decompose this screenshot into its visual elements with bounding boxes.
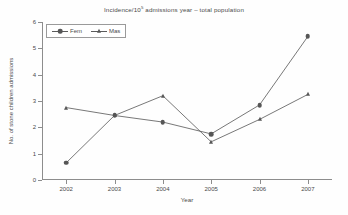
chart-container: Incidence/105 admissions year – total po… (0, 0, 348, 215)
x-tick (211, 180, 212, 184)
y-tick-label: 4 (33, 72, 36, 78)
data-point-mas-2004 (161, 94, 165, 98)
chart-title-prefix: Incidence/10 (104, 6, 141, 13)
data-point-fem-2005 (209, 132, 214, 137)
data-point-mas-2006 (258, 117, 262, 121)
y-axis-title-text: No. of stone children admissions (8, 58, 14, 145)
series-line-fem (66, 36, 308, 162)
x-tick (66, 180, 67, 184)
chart-legend: Fem Mas (46, 24, 126, 38)
data-point-fem-2007 (306, 34, 311, 39)
x-tick (308, 180, 309, 184)
y-tick-label: 0 (33, 177, 36, 183)
data-point-fem-2004 (161, 120, 166, 125)
x-tick-label: 2005 (204, 186, 217, 192)
x-tick-label: 2006 (253, 186, 266, 192)
chart-title: Incidence/105 admissions year – total po… (0, 6, 348, 13)
data-point-mas-2002 (64, 105, 68, 109)
legend-entry-mas[interactable]: Mas (91, 27, 120, 35)
legend-marker-circle-icon (52, 27, 68, 35)
legend-entry-fem[interactable]: Fem (52, 27, 82, 35)
y-tick-label: 3 (33, 98, 36, 104)
x-tick (115, 180, 116, 184)
data-point-mas-2007 (306, 92, 310, 96)
data-point-fem-2006 (257, 103, 262, 108)
x-tick (163, 180, 164, 184)
chart-title-suffix: admissions year – total population (143, 6, 244, 13)
y-axis-title: No. of stone children admissions (6, 22, 16, 180)
x-tick-label: 2007 (301, 186, 314, 192)
x-tick-label: 2004 (156, 186, 169, 192)
plot-area: 0123456 200220032004200520062007 (42, 22, 332, 180)
x-tick-label: 2002 (59, 186, 72, 192)
x-tick-label: 2003 (108, 186, 121, 192)
legend-label-mas: Mas (109, 28, 120, 34)
y-tick-label: 6 (33, 19, 36, 25)
series-line-mas (66, 94, 308, 141)
y-tick-label: 1 (33, 151, 36, 157)
legend-label-fem: Fem (70, 28, 82, 34)
legend-marker-triangle-icon (91, 27, 107, 35)
x-axis-title: Year (42, 196, 332, 203)
series-lines (42, 22, 332, 180)
y-tick (38, 180, 42, 181)
y-tick-label: 5 (33, 45, 36, 51)
data-point-mas-2003 (113, 113, 117, 117)
x-tick (260, 180, 261, 184)
y-tick-label: 2 (33, 124, 36, 130)
data-point-fem-2002 (64, 161, 69, 166)
data-point-mas-2005 (209, 140, 213, 144)
